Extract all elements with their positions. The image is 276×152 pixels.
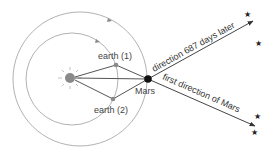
earth-1-label: earth (1) <box>98 51 132 61</box>
star-icon: ★ <box>244 10 251 19</box>
mars-parallax-diagram: earth (1) earth (2) Mars direction 687 d… <box>0 0 276 152</box>
earth-2-point <box>111 97 116 102</box>
direction-687-days-later-label: direction 687 days later <box>150 20 236 74</box>
star-icon: ★ <box>251 128 258 137</box>
first-direction-label: first direction of Mars <box>161 72 242 115</box>
earth-2-label: earth (2) <box>94 105 128 115</box>
first-direction-arrow <box>148 79 255 126</box>
mars-point <box>144 75 152 83</box>
direction-687-days-later-arrow <box>148 21 253 79</box>
star-icon: ★ <box>254 112 261 121</box>
earth-1-point <box>114 63 119 68</box>
mars-label: Mars <box>135 86 155 96</box>
star-icon: ★ <box>255 39 262 48</box>
